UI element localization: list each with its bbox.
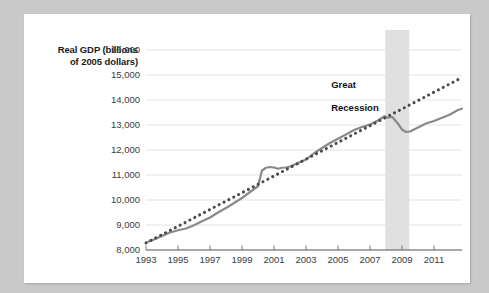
- y-tick-label-4: 12,000: [92, 145, 140, 155]
- real-gdp-line-chart: Real GDP (billions of 2005 dollars) 16,0…: [24, 14, 470, 283]
- x-tick-label-6: 2005: [321, 255, 355, 265]
- great-recession-annotation: Great Recession: [331, 68, 379, 126]
- x-tick-label-8: 2009: [385, 255, 419, 265]
- x-tick-label-4: 2001: [257, 255, 291, 265]
- y-tick-label-5: 11,000: [92, 170, 140, 180]
- y-tick-label-1: 15,000: [92, 70, 140, 80]
- x-tick-label-5: 2003: [289, 255, 323, 265]
- x-tick-label-2: 1997: [193, 255, 227, 265]
- x-tick-label-3: 1999: [225, 255, 259, 265]
- plot-area: [24, 14, 470, 283]
- x-tick-label-9: 2011: [417, 255, 451, 265]
- recession-shading: [385, 30, 409, 250]
- figure-card: Real GDP (billions of 2005 dollars) 16,0…: [24, 14, 470, 283]
- y-tick-label-8: 8,000: [92, 245, 140, 255]
- great-recession-line2: Recession: [331, 102, 379, 114]
- x-tick-label-1: 1995: [161, 255, 195, 265]
- y-tick-label-7: 9,000: [92, 220, 140, 230]
- y-tick-label-3: 13,000: [92, 120, 140, 130]
- y-tick-label-0: 16,000: [92, 45, 140, 55]
- y-tick-label-6: 10,000: [92, 195, 140, 205]
- x-tick-label-7: 2007: [353, 255, 387, 265]
- series-line-0: [146, 109, 462, 243]
- y-tick-label-2: 14,000: [92, 95, 140, 105]
- x-tick-label-0: 1993: [129, 255, 163, 265]
- great-recession-line1: Great: [331, 79, 379, 91]
